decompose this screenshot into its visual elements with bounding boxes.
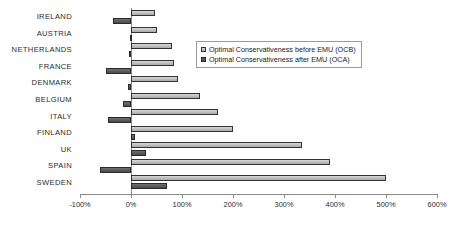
x-tick — [437, 194, 438, 198]
category-label: BELGIUM — [35, 95, 72, 104]
x-tick-label: 300% — [275, 200, 294, 209]
bar-ocb — [131, 27, 157, 33]
category-label: SWEDEN — [37, 177, 72, 186]
x-tick-label: 100% — [173, 200, 192, 209]
x-tick-label: 0% — [126, 200, 137, 209]
category-label: NETHERLANDS — [12, 45, 72, 54]
x-tick — [131, 194, 132, 198]
bar-ocb — [131, 142, 302, 148]
bar-ocb — [131, 76, 178, 82]
bar-ocb — [131, 126, 233, 132]
bar-row: AUSTRIA — [80, 25, 437, 42]
category-label: FRANCE — [39, 61, 72, 70]
bar-row: SPAIN — [80, 157, 437, 174]
x-tick — [233, 194, 234, 198]
bar-oca — [131, 150, 146, 156]
legend-item-oca: Optimal Conservativeness after EMU (OCA) — [201, 55, 356, 65]
category-label: SPAIN — [48, 161, 72, 170]
x-axis-line — [80, 194, 437, 195]
category-label: IRELAND — [37, 12, 72, 21]
x-tick — [335, 194, 336, 198]
x-tick — [284, 194, 285, 198]
bar-ocb — [131, 109, 218, 115]
plot-area: IRELANDAUSTRIANETHERLANDSFRANCEDENMARKBE… — [80, 8, 437, 198]
legend-label-oca: Optimal Conservativeness after EMU (OCA) — [209, 55, 350, 65]
bar-rows: IRELANDAUSTRIANETHERLANDSFRANCEDENMARKBE… — [80, 8, 437, 190]
bar-ocb — [131, 10, 155, 16]
bar-oca — [129, 51, 131, 57]
bar-ocb — [131, 43, 172, 49]
legend-swatch-ocb-icon — [201, 47, 206, 52]
bar-row: SWEDEN — [80, 173, 437, 190]
bar-oca — [130, 35, 132, 41]
bar-row: ITALY — [80, 107, 437, 124]
bar-row: IRELAND — [80, 8, 437, 25]
chart-legend: Optimal Conservativeness before EMU (OCB… — [196, 41, 362, 68]
bar-row: UK — [80, 140, 437, 157]
bar-ocb — [131, 159, 330, 165]
legend-label-ocb: Optimal Conservativeness before EMU (OCB… — [209, 45, 356, 55]
bar-row: FINLAND — [80, 124, 437, 141]
legend-swatch-oca-icon — [201, 57, 206, 62]
x-tick-label: 200% — [224, 200, 243, 209]
bar-chart: IRELANDAUSTRIANETHERLANDSFRANCEDENMARKBE… — [0, 0, 457, 230]
bar-oca — [106, 68, 132, 74]
bar-row: DENMARK — [80, 74, 437, 91]
x-tick — [386, 194, 387, 198]
bar-ocb — [131, 175, 386, 181]
bar-oca — [113, 18, 131, 24]
category-label: UK — [61, 144, 72, 153]
legend-item-ocb: Optimal Conservativeness before EMU (OCB… — [201, 45, 356, 55]
category-label: AUSTRIA — [37, 28, 72, 37]
bar-ocb — [131, 93, 200, 99]
category-label: FINLAND — [37, 128, 72, 137]
bar-oca — [100, 167, 131, 173]
bar-ocb — [131, 60, 174, 66]
bar-oca — [123, 101, 131, 107]
bar-oca — [128, 84, 131, 90]
x-tick-label: -100% — [69, 200, 90, 209]
bar-row: BELGIUM — [80, 91, 437, 108]
bar-oca — [131, 183, 167, 189]
x-tick-label: 400% — [326, 200, 345, 209]
x-tick-label: 600% — [428, 200, 447, 209]
x-tick — [182, 194, 183, 198]
bar-oca — [108, 117, 131, 123]
category-label: ITALY — [50, 111, 72, 120]
category-label: DENMARK — [32, 78, 72, 87]
x-tick — [80, 194, 81, 198]
bar-oca — [131, 134, 135, 140]
x-tick-label: 500% — [377, 200, 396, 209]
